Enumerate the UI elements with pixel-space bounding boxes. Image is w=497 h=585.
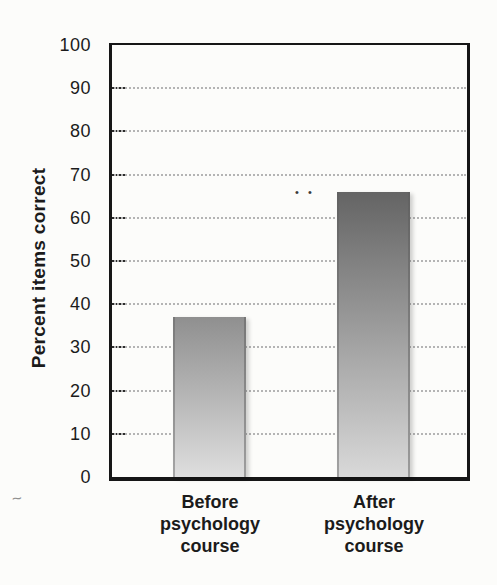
y-tick-label-10: 10 (20, 423, 100, 445)
x-category-label-after-psychology-course-line-1: psychology (292, 513, 456, 535)
dotted-gridline-50 (114, 260, 466, 262)
gridline-40 (112, 303, 467, 305)
dotted-gridline-40 (114, 303, 466, 305)
y-tick-label-90: 90 (20, 77, 100, 99)
x-category-label-before-psychology-course: Beforepsychologycourse (128, 491, 292, 557)
gridline-80 (112, 130, 467, 132)
gridline-50 (112, 260, 467, 262)
dotted-gridline-20 (114, 390, 466, 392)
dotted-gridline-70 (114, 174, 466, 176)
x-category-label-before-psychology-course-line-1: psychology (128, 513, 292, 535)
gridline-10 (112, 433, 467, 435)
dotted-gridline-60 (114, 217, 466, 219)
x-category-label-after-psychology-course-line-0: After (292, 491, 456, 513)
y-tick-label-0: 0 (20, 466, 100, 488)
pencil-mark-artifact: ~ (11, 488, 24, 509)
y-tick-label-30: 30 (20, 336, 100, 358)
bar-before-psychology-course (173, 317, 246, 477)
gridline-90 (112, 87, 467, 89)
plot-area (109, 43, 470, 481)
dotted-gridline-90 (114, 87, 466, 89)
y-tick-label-20: 20 (20, 380, 100, 402)
bar-after-psychology-course (337, 192, 410, 477)
y-tick-label-70: 70 (20, 164, 100, 186)
gridline-30 (112, 346, 467, 348)
y-tick-label-100: 100 (20, 34, 100, 56)
y-tick-label-60: 60 (20, 207, 100, 229)
x-category-label-before-psychology-course-line-0: Before (128, 491, 292, 513)
gridline-70 (112, 174, 467, 176)
x-category-label-after-psychology-course-line-2: course (292, 535, 456, 557)
y-tick-label-50: 50 (20, 250, 100, 272)
bar-chart: Percent items correct 100908070605040302… (0, 0, 497, 585)
x-category-label-after-psychology-course: Afterpsychologycourse (292, 491, 456, 557)
dotted-gridline-80 (114, 130, 466, 132)
dotted-gridline-30 (114, 346, 466, 348)
gridline-60 (112, 217, 467, 219)
dotted-gridline-10 (114, 433, 466, 435)
y-tick-label-40: 40 (20, 293, 100, 315)
gridline-20 (112, 390, 467, 392)
y-tick-label-80: 80 (20, 120, 100, 142)
x-category-label-before-psychology-course-line-2: course (128, 535, 292, 557)
